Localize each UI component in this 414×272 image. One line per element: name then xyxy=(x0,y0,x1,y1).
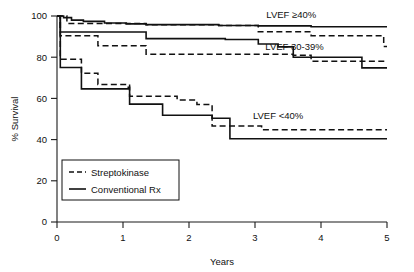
y-tick-label: 0 xyxy=(42,216,47,227)
curve-label: LVEF ≥40% xyxy=(266,9,316,20)
x-tick-marks xyxy=(57,222,387,228)
data-series-group xyxy=(57,16,387,139)
x-axis-title: Years xyxy=(210,256,234,267)
series-line xyxy=(57,16,387,130)
x-tick-label: 5 xyxy=(384,232,389,243)
y-tick-labels: 020406080100 xyxy=(31,10,47,227)
x-tick-label: 3 xyxy=(252,232,257,243)
curve-label: LVEF 30-39% xyxy=(265,41,324,52)
y-tick-label: 100 xyxy=(31,10,47,21)
y-axis-title: % Survival xyxy=(9,97,20,142)
curve-label: LVEF <40% xyxy=(253,110,304,121)
y-tick-label: 40 xyxy=(36,134,47,145)
series-line xyxy=(57,16,387,139)
survival-chart: 020406080100 % Survival 012345 Years LVE… xyxy=(0,0,414,272)
x-tick-label: 0 xyxy=(54,232,59,243)
x-tick-label: 1 xyxy=(120,232,125,243)
chart-canvas: 020406080100 % Survival 012345 Years LVE… xyxy=(0,0,414,272)
x-axis: 012345 Years xyxy=(54,222,389,267)
legend-label-conventional-rx: Conventional Rx xyxy=(91,184,161,195)
y-tick-label: 20 xyxy=(36,175,47,186)
chart-legend: Streptokinase Conventional Rx xyxy=(62,160,179,200)
legend-label-streptokinase: Streptokinase xyxy=(91,167,149,178)
y-tick-marks xyxy=(51,16,57,222)
x-tick-label: 4 xyxy=(318,232,323,243)
series-line xyxy=(57,16,387,46)
y-axis: 020406080100 % Survival xyxy=(9,10,57,227)
y-tick-label: 60 xyxy=(36,93,47,104)
x-tick-label: 2 xyxy=(186,232,191,243)
x-tick-labels: 012345 xyxy=(54,232,389,243)
y-tick-label: 80 xyxy=(36,52,47,63)
